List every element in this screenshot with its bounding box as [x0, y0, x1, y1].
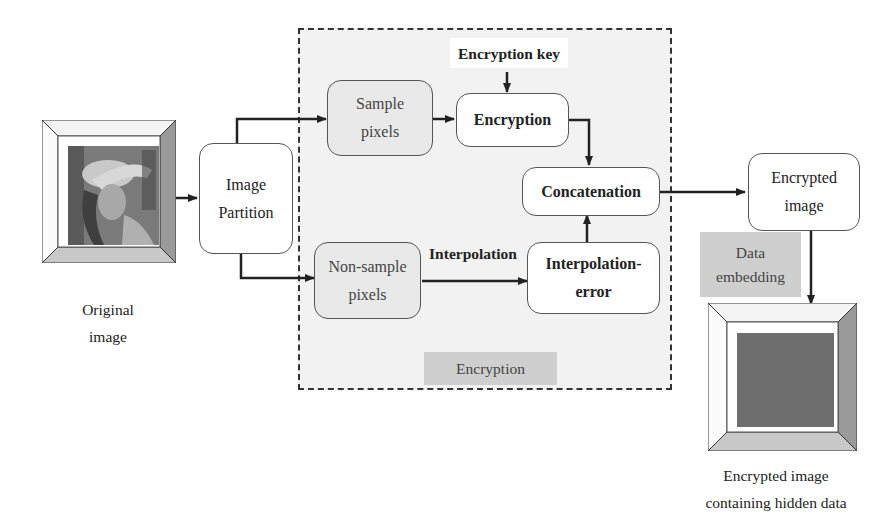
lena-photo [68, 146, 159, 245]
encryption-node: Encryption [456, 93, 569, 147]
non-sample-pixels-line2: pixels [328, 281, 406, 309]
data-embedding-line2: embedding [716, 265, 785, 289]
encrypted-output-image [708, 303, 857, 451]
image-partition-node: Image Partition [199, 143, 293, 254]
sample-pixels-node: Sample pixels [327, 80, 433, 156]
original-image [42, 120, 176, 263]
output-caption-line1: Encrypted image [686, 462, 866, 489]
output-caption-line2: containing hidden data [686, 489, 866, 515]
interpolation-error-line2: error [546, 278, 642, 306]
encrypted-output-caption: Encrypted image containing hidden data [686, 462, 866, 515]
data-embedding-line1: Data [716, 241, 785, 265]
encrypted-image-line2: image [771, 192, 837, 220]
arrow-partition-to-nonsample [241, 253, 314, 278]
encryption-key-label: Encryption key [450, 40, 568, 67]
encryption-label: Encryption [474, 106, 551, 134]
arrow-encryption-to-concatenation [569, 120, 589, 165]
interpolation-edge-label: Interpolation [421, 240, 525, 267]
encrypted-image-line1: Encrypted [771, 164, 837, 192]
data-embedding-label: Data embedding [700, 232, 801, 297]
noise-image [737, 333, 834, 427]
original-caption-line2: image [58, 323, 158, 350]
original-image-caption: Original image [58, 296, 158, 350]
concatenation-node: Concatenation [522, 167, 660, 216]
interpolation-error-node: Interpolation- error [527, 242, 660, 314]
interpolation-error-line1: Interpolation- [546, 250, 642, 278]
original-caption-line1: Original [58, 296, 158, 323]
concatenation-label: Concatenation [541, 178, 641, 206]
arrow-partition-to-sample [237, 119, 326, 143]
image-partition-line2: Partition [218, 199, 273, 227]
encryption-region-label: Encryption [424, 352, 557, 385]
non-sample-pixels-node: Non-sample pixels [314, 242, 421, 319]
non-sample-pixels-line1: Non-sample [328, 253, 406, 281]
sample-pixels-line2: pixels [356, 118, 404, 146]
encrypted-image-node: Encrypted image [748, 153, 860, 231]
image-partition-line1: Image [218, 171, 273, 199]
sample-pixels-line1: Sample [356, 90, 404, 118]
